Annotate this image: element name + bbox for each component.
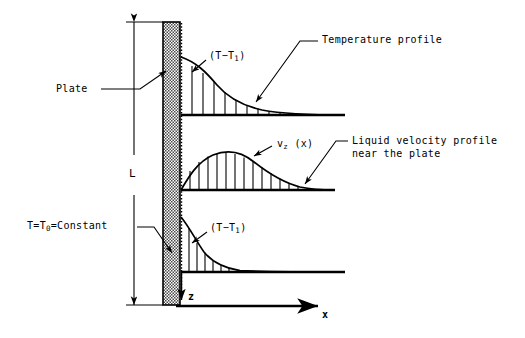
velocity-profile-callout: Liquid velocity profilenear the plate bbox=[352, 134, 497, 160]
wall-temperature-subscript: 0 bbox=[46, 224, 51, 233]
technical-diagram: Plate T=T0=Constant L z x (T−T1) (T−T1) … bbox=[0, 0, 525, 338]
wall-temperature-prefix: T=T bbox=[27, 220, 46, 231]
velocity-symbol-argument: (x) bbox=[288, 138, 313, 149]
temperature-profile-callout: Temperature profile bbox=[322, 34, 442, 46]
velocity-profile-callout-line1: Liquid velocity profile bbox=[352, 135, 497, 146]
wall-temperature-label: T=T0=Constant bbox=[27, 220, 108, 233]
diagram-canvas bbox=[0, 0, 525, 338]
temperature-profile-lower bbox=[181, 217, 345, 272]
plate-shape bbox=[163, 22, 180, 305]
temp-delta-label-lower: (T−T1) bbox=[210, 222, 246, 235]
z-axis-label: z bbox=[188, 291, 194, 302]
wall-temperature-suffix: =Constant bbox=[51, 220, 108, 231]
plate-label: Plate bbox=[56, 83, 88, 95]
temp-delta-label-upper: (T−T1) bbox=[209, 50, 245, 63]
temp-delta-open: (T−T bbox=[209, 50, 234, 61]
temp-delta-subscript-lower: 1 bbox=[235, 226, 240, 235]
temp-delta-close-lower: ) bbox=[240, 222, 246, 233]
length-dimension-label: L bbox=[129, 167, 136, 180]
temp-delta-open-lower: (T−T bbox=[210, 222, 235, 233]
velocity-symbol-subscript: z bbox=[283, 142, 288, 151]
velocity-profile-callout-line2: near the plate bbox=[352, 148, 441, 159]
velocity-profile bbox=[181, 152, 335, 190]
length-dimension-arrow bbox=[126, 22, 163, 305]
temperature-profile-upper bbox=[181, 57, 345, 115]
x-axis-label: x bbox=[322, 309, 328, 320]
temp-delta-subscript: 1 bbox=[234, 54, 239, 63]
temp-delta-close: ) bbox=[239, 50, 245, 61]
velocity-symbol-label: vz (x) bbox=[277, 138, 313, 151]
